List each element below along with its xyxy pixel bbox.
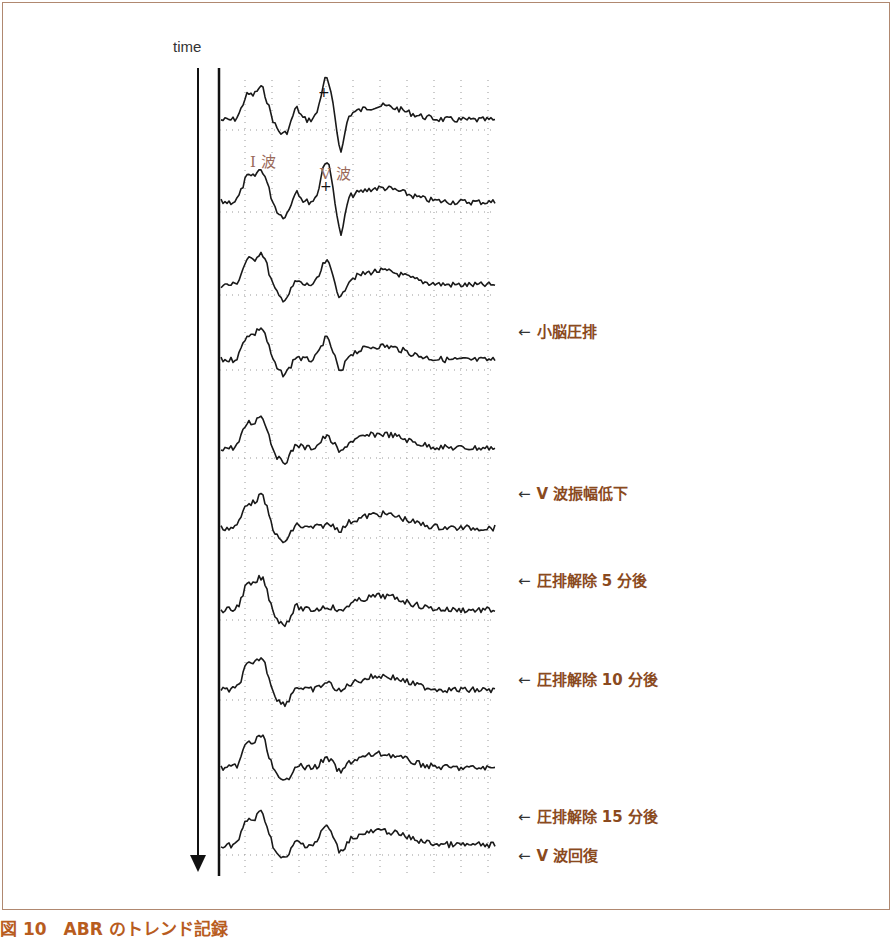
abr-trace-3	[221, 252, 495, 301]
abr-trace-4	[221, 328, 495, 377]
abr-trace-2	[221, 163, 495, 235]
annotation-v-recovery: ←V 波回復	[518, 844, 598, 865]
annotation-release-5min: ←圧排解除 5 分後	[518, 569, 647, 590]
abr-trace-8	[221, 658, 495, 706]
abr-trace-6	[221, 494, 495, 543]
annotation-release-10min: ←圧排解除 10 分後	[518, 668, 658, 689]
wave-v-label: V 波	[320, 162, 351, 183]
annotation-v-amplitude-decrease: ←V 波振幅低下	[518, 482, 628, 503]
time-arrow-head-icon	[190, 855, 206, 872]
abr-trace-10	[221, 810, 495, 857]
abr-trace-5	[221, 416, 495, 464]
wave-i-label: I 波	[250, 150, 276, 171]
figure-caption: 図 10 ABR のトレンド記録	[0, 915, 228, 940]
v-peak-marker-1: +	[318, 84, 330, 100]
annotation-release-15min: ←圧排解除 15 分後	[518, 805, 658, 826]
abr-trace-9	[221, 735, 495, 780]
abr-trace-7	[221, 576, 495, 627]
annotation-cerebellar-retraction: ←小脳圧排	[518, 320, 597, 341]
abr-trace-1	[221, 78, 495, 153]
